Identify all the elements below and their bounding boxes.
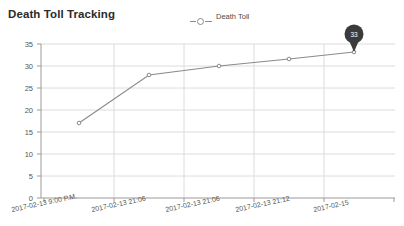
y-tick-label: 15 — [25, 128, 33, 137]
x-tick-label: 2017-02-13 21:06 — [165, 195, 221, 213]
x-tick-label: 2017-02-15 — [313, 199, 350, 213]
plot-area: 35 30 25 20 15 10 5 0 2017-02-13 9:00 P.… — [0, 0, 404, 226]
data-point[interactable] — [77, 121, 81, 125]
death-toll-chart: Death Toll Tracking Death Toll — [0, 0, 404, 226]
y-tick-label: 30 — [25, 62, 33, 71]
x-tick-label: 2017-02-13 9:00 P.M. — [11, 192, 78, 213]
data-point[interactable] — [147, 73, 151, 77]
y-gridlines — [41, 44, 395, 176]
data-point[interactable] — [217, 64, 221, 68]
data-point[interactable] — [287, 57, 291, 61]
end-point-badge[interactable]: 33 — [345, 25, 364, 53]
y-tick-label: 5 — [29, 172, 33, 181]
x-tick-label: 2017-02-13 21:12 — [235, 195, 291, 213]
y-tick-label: 10 — [25, 150, 33, 159]
y-tick-label: 35 — [25, 40, 33, 49]
x-tick-labels: 2017-02-13 9:00 P.M. 2017-02-13 21:06 20… — [11, 192, 350, 213]
y-tick-label: 20 — [25, 106, 33, 115]
y-axis — [37, 44, 41, 198]
badge-value: 33 — [350, 31, 358, 38]
x-tick-label: 2017-02-13 21:06 — [91, 195, 147, 213]
y-tick-label: 25 — [25, 84, 33, 93]
y-tick-labels: 35 30 25 20 15 10 5 0 — [25, 40, 33, 203]
